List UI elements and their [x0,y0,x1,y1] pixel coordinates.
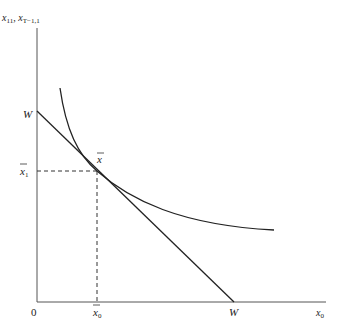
x-star-label: x0 [92,306,102,320]
diagram-canvas: x11, xT−1,1 W x1 x 0 x0 W x0 [0,0,337,331]
y-star-label: x1 [19,165,29,179]
budget-intercept-x-label: W [229,306,239,318]
x-axis-label: x0 [315,307,324,320]
budget-intercept-y-label: W [23,108,33,120]
tangency-label: x [96,153,102,165]
indifference-curve [60,88,274,230]
budget-line [37,111,234,302]
origin-label: 0 [31,306,37,318]
y-axis-label: x11, xT−1,1 [1,12,40,25]
